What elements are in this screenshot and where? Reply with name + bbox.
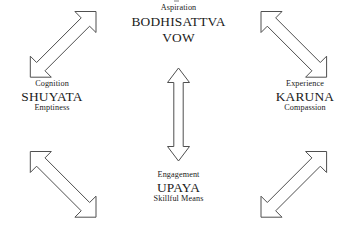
node-engagement-gloss: Skillful Means	[106, 195, 251, 204]
node-aspiration: Aspiration BODHISATTVA VOW	[0, 4, 357, 46]
arrow-aspiration-engagement	[168, 68, 190, 161]
node-engagement-title: UPAYA	[106, 181, 251, 195]
node-aspiration-sub: Aspiration	[0, 4, 357, 13]
node-cognition-title: SHUYATA	[0, 90, 104, 104]
node-experience-title: KARUNA	[253, 90, 357, 104]
diagram-canvas: Aspiration BODHISATTVA VOW Cognition SHU…	[0, 0, 357, 228]
node-cognition-sub: Cognition	[0, 80, 104, 89]
arrow-cognition-engagement	[30, 152, 96, 218]
arrow-engagement-experience	[261, 152, 327, 218]
node-cognition: Cognition SHUYATA Emptiness	[0, 80, 104, 113]
node-engagement-sub: Engagement	[106, 171, 251, 180]
node-experience: Experience KARUNA Compassion	[253, 80, 357, 113]
node-cognition-gloss: Emptiness	[0, 104, 104, 113]
node-aspiration-title-line2: VOW	[0, 30, 357, 45]
node-engagement: Engagement UPAYA Skillful Means	[106, 171, 251, 204]
node-aspiration-title-line1: BODHISATTVA	[0, 14, 357, 29]
node-experience-sub: Experience	[253, 80, 357, 89]
node-experience-gloss: Compassion	[253, 104, 357, 113]
